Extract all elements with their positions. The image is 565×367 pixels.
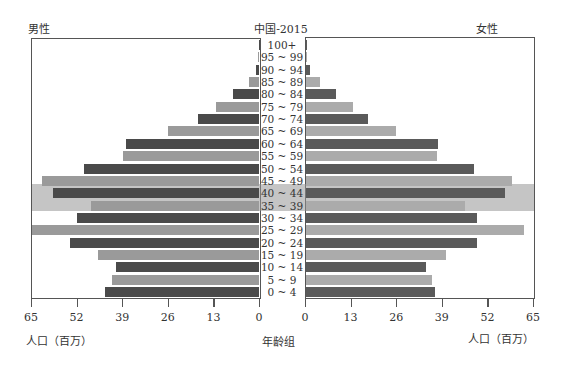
female-bar: [306, 213, 477, 223]
age-group-label: 95 ~ 99: [257, 51, 307, 63]
male-bar: [98, 250, 259, 260]
male-axis-title: 人口（百万）: [26, 332, 92, 348]
x-tick-label: 52: [62, 311, 92, 324]
age-group-label: 40 ~ 44: [257, 187, 307, 199]
male-bar: [198, 114, 259, 124]
female-bar: [306, 77, 320, 87]
female-bar: [306, 188, 505, 198]
female-bar: [306, 151, 437, 161]
male-bar: [53, 188, 259, 198]
x-tick: [442, 298, 443, 307]
age-group-label: 70 ~ 74: [257, 113, 307, 125]
age-group-label: 0 ~ 4: [257, 286, 307, 298]
age-group-label: 60 ~ 64: [257, 138, 307, 150]
male-label: 男性: [28, 20, 50, 36]
age-group-label: 15 ~ 19: [257, 249, 307, 261]
female-bar: [306, 102, 353, 112]
x-tick: [31, 298, 32, 307]
x-tick: [533, 298, 534, 307]
x-tick: [487, 298, 488, 307]
age-group-label: 100+: [257, 39, 307, 51]
male-bar: [32, 225, 259, 235]
female-x-axis: [305, 298, 535, 299]
x-tick-label: 13: [336, 311, 366, 324]
male-bar: [42, 176, 259, 186]
male-x-axis: [31, 298, 261, 299]
female-bar: [306, 139, 438, 149]
x-tick-label: 39: [107, 311, 137, 324]
x-tick: [396, 298, 397, 307]
female-axis-title: 人口（百万）: [468, 330, 534, 346]
female-bar: [306, 238, 477, 248]
male-bar: [116, 262, 259, 272]
female-bar: [306, 250, 446, 260]
x-tick: [77, 298, 78, 307]
x-tick: [213, 298, 214, 307]
female-bar: [306, 275, 432, 285]
x-tick-label: 0: [244, 311, 274, 324]
female-bar: [306, 225, 524, 235]
x-tick: [259, 298, 260, 307]
male-bar: [126, 139, 259, 149]
chart-title: 中国-2015: [236, 20, 326, 36]
x-tick-label: 52: [472, 311, 502, 324]
age-group-label: 20 ~ 24: [257, 237, 307, 249]
male-bar: [70, 238, 259, 248]
male-bar: [168, 126, 259, 136]
female-bar: [306, 201, 465, 211]
male-bar: [77, 213, 259, 223]
x-tick-label: 65: [518, 311, 548, 324]
male-bar: [84, 164, 259, 174]
male-bar: [91, 201, 259, 211]
age-group-axis-title: 年龄组: [262, 333, 295, 349]
female-label: 女性: [476, 20, 498, 36]
female-bar: [306, 126, 396, 136]
age-group-label: 50 ~ 54: [257, 163, 307, 175]
male-bar: [216, 102, 259, 112]
age-group-label: 5 ~ 9: [257, 274, 307, 286]
female-bar: [306, 287, 435, 297]
x-tick-label: 26: [381, 311, 411, 324]
x-tick-label: 13: [198, 311, 228, 324]
x-tick-label: 26: [153, 311, 183, 324]
age-group-label: 80 ~ 84: [257, 88, 307, 100]
age-group-label: 45 ~ 49: [257, 175, 307, 187]
age-group-label: 90 ~ 94: [257, 64, 307, 76]
x-tick: [122, 298, 123, 307]
male-bar: [233, 89, 259, 99]
male-bar: [123, 151, 259, 161]
age-group-label: 10 ~ 14: [257, 261, 307, 273]
age-group-label: 35 ~ 39: [257, 200, 307, 212]
female-bar: [306, 114, 368, 124]
x-tick: [305, 298, 306, 307]
x-tick-label: 0: [290, 311, 320, 324]
age-group-label: 85 ~ 89: [257, 76, 307, 88]
age-group-label: 55 ~ 59: [257, 150, 307, 162]
x-tick-label: 39: [427, 311, 457, 324]
female-bar: [306, 176, 512, 186]
x-tick: [351, 298, 352, 307]
age-group-label: 75 ~ 79: [257, 101, 307, 113]
age-group-label: 30 ~ 34: [257, 212, 307, 224]
female-bar: [306, 262, 426, 272]
age-group-label: 65 ~ 69: [257, 125, 307, 137]
female-bar: [306, 89, 336, 99]
x-tick-label: 65: [16, 311, 46, 324]
male-bar: [105, 287, 259, 297]
age-group-label: 25 ~ 29: [257, 224, 307, 236]
male-bar: [112, 275, 259, 285]
female-bar: [306, 164, 474, 174]
x-tick: [168, 298, 169, 307]
